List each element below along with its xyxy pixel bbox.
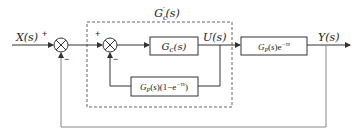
inner-sum-minus-sign: − bbox=[113, 54, 118, 64]
input-label: X(s) bbox=[15, 31, 38, 44]
output-label: Y(s) bbox=[318, 31, 340, 44]
inner-summing-junction bbox=[103, 38, 117, 52]
control-signal-label: U(s) bbox=[203, 31, 227, 44]
outer-sum-plus-sign: + bbox=[42, 29, 47, 39]
outer-sum-minus-sign: − bbox=[64, 54, 69, 64]
dashed-box-label: Gc′(s) bbox=[154, 6, 180, 22]
inner-sum-plus-sign: + bbox=[95, 29, 100, 39]
outer-summing-junction bbox=[54, 38, 68, 52]
predictor-branch-line bbox=[198, 45, 220, 86]
block-diagram: Gc′(s) X(s) + − + − Gc(s) U(s) GP(s)(1−e… bbox=[0, 0, 359, 139]
